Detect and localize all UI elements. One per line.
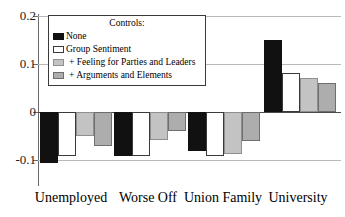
bar-unemployed-arguments <box>94 112 112 146</box>
legend-label-none: None <box>66 31 87 42</box>
legend-label-arguments: + Arguments and Elements <box>69 70 172 81</box>
bar-university-feeling <box>300 78 318 112</box>
legend-swatch-arguments-icon <box>53 72 64 79</box>
y-tick-label--0.1: -0.1 <box>15 153 36 166</box>
legend-swatch-feeling-icon <box>53 59 64 66</box>
bar-union-family-feeling <box>224 112 242 154</box>
bar-worse-off-feeling <box>150 112 168 140</box>
bar-university-none <box>264 40 282 112</box>
bar-worse-off-arguments <box>168 112 186 131</box>
category-label-university: University <box>255 190 341 206</box>
bar-chart: 0.2 0.1 0 -0.1 Unemployed Worse Off Unio… <box>0 0 345 217</box>
legend-swatch-none-icon <box>53 33 64 40</box>
y-tick-label-0: 0 <box>30 105 37 118</box>
legend-title: Controls: <box>53 18 201 29</box>
bar-union-family-arguments <box>242 112 260 141</box>
bar-unemployed-none <box>40 112 58 163</box>
legend-label-feeling: + Feeling for Parties and Leaders <box>69 57 195 68</box>
category-label-unemployed: Unemployed <box>24 190 118 206</box>
legend-label-group-sentiment: Group Sentiment <box>66 44 131 55</box>
legend-item-none: None <box>53 30 201 43</box>
bar-union-family-group-sentiment <box>206 112 224 156</box>
legend-item-arguments: + Arguments and Elements <box>53 69 201 82</box>
legend-swatch-group-sentiment-icon <box>53 46 64 53</box>
y-tick-label-0.2: 0.2 <box>20 9 36 22</box>
bar-unemployed-feeling <box>76 112 94 136</box>
gridline--0.1 <box>38 160 341 161</box>
legend-item-group-sentiment: Group Sentiment <box>53 43 201 56</box>
bar-worse-off-none <box>114 112 132 156</box>
bar-union-family-none <box>188 112 206 151</box>
legend-item-feeling: + Feeling for Parties and Leaders <box>53 56 201 69</box>
bar-worse-off-group-sentiment <box>132 112 150 156</box>
bar-university-arguments <box>318 83 336 112</box>
legend: Controls: None Group Sentiment + Feeling… <box>48 15 206 86</box>
bar-university-group-sentiment <box>282 73 300 112</box>
y-tick-label-0.1: 0.1 <box>20 57 36 70</box>
bar-unemployed-group-sentiment <box>58 112 76 156</box>
